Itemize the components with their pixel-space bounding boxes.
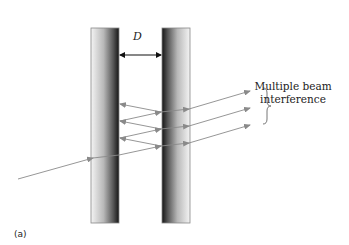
panel-label: (a) — [14, 229, 27, 239]
annotation-label: Multiple beam interference — [243, 80, 343, 106]
light-rays — [18, 91, 250, 179]
fabry-perot-diagram — [0, 0, 349, 245]
gap-label: D — [133, 30, 142, 43]
right-plate — [162, 28, 190, 223]
annotation-line-2: interference — [243, 93, 343, 106]
annotation-line-1: Multiple beam — [243, 80, 343, 93]
left-plate — [91, 28, 119, 223]
